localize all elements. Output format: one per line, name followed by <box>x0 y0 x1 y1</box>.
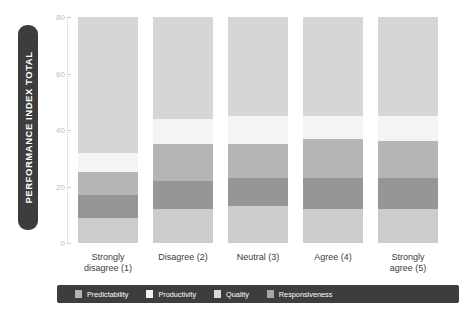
legend-item[interactable]: Productivity <box>146 290 196 299</box>
x-axis-label: Disagree (2) <box>145 252 221 263</box>
y-tick-label: 80 <box>45 13 65 22</box>
y-tick-label: 40 <box>45 126 65 135</box>
bar-segment[interactable] <box>378 209 438 243</box>
y-tick-mark <box>67 74 71 75</box>
legend-item[interactable]: Responsiveness <box>267 290 333 299</box>
x-axis-label-line: Strongly <box>370 252 446 263</box>
bar-segment[interactable] <box>78 153 138 173</box>
x-axis-label-line: Strongly <box>70 252 146 263</box>
bar-segment[interactable] <box>78 218 138 243</box>
bar-column[interactable] <box>378 17 438 243</box>
x-axis-label: Stronglydisagree (1) <box>70 252 146 274</box>
x-axis-label-line: Neutral (3) <box>220 252 296 263</box>
x-axis-label: Stronglyagree (5) <box>370 252 446 274</box>
bar-segment[interactable] <box>378 141 438 178</box>
bar-segment[interactable] <box>228 144 288 178</box>
legend-label: Responsiveness <box>279 290 333 299</box>
plot-area: 020406080 <box>45 10 465 250</box>
bar-segment[interactable] <box>303 116 363 139</box>
bar-segment[interactable] <box>303 17 363 116</box>
legend-swatch-icon <box>214 290 221 298</box>
bar-group <box>78 10 465 250</box>
legend-swatch-icon <box>75 290 82 298</box>
y-tick-mark <box>67 243 71 244</box>
bar-segment[interactable] <box>303 139 363 179</box>
y-axis-title-block: PERFORMANCE INDEX TOTAL <box>18 25 38 230</box>
chart-root: PERFORMANCE INDEX TOTAL 020406080 Strong… <box>0 0 474 319</box>
bar-segment[interactable] <box>228 116 288 144</box>
bar-segment[interactable] <box>153 17 213 119</box>
legend-item[interactable]: Quality <box>214 290 249 299</box>
x-axis-labels: Stronglydisagree (1)Disagree (2)Neutral … <box>45 252 465 280</box>
legend-swatch-icon <box>267 290 274 298</box>
y-axis-title: PERFORMANCE INDEX TOTAL <box>23 51 34 203</box>
legend-swatch-icon <box>146 290 153 298</box>
x-axis-label: Neutral (3) <box>220 252 296 263</box>
bar-segment[interactable] <box>303 178 363 209</box>
x-axis-label-line: disagree (1) <box>70 263 146 274</box>
y-tick-label: 60 <box>45 69 65 78</box>
bar-column[interactable] <box>153 17 213 243</box>
y-tick-label: 20 <box>45 182 65 191</box>
bar-column[interactable] <box>303 17 363 243</box>
bar-segment[interactable] <box>378 116 438 141</box>
bar-segment[interactable] <box>78 17 138 153</box>
x-axis-label-line: agree (5) <box>370 263 446 274</box>
bar-segment[interactable] <box>153 119 213 144</box>
y-tick-mark <box>67 130 71 131</box>
legend-item[interactable]: Predictability <box>75 290 128 299</box>
bar-segment[interactable] <box>378 17 438 116</box>
bar-segment[interactable] <box>378 178 438 209</box>
bar-segment[interactable] <box>153 181 213 209</box>
legend-label: Quality <box>226 290 249 299</box>
bar-segment[interactable] <box>153 209 213 243</box>
chart-legend: PredictabilityProductivityQualityRespons… <box>57 285 459 303</box>
bar-segment[interactable] <box>228 17 288 116</box>
bar-segment[interactable] <box>78 172 138 195</box>
legend-label: Predictability <box>87 290 128 299</box>
x-axis-label-line: Disagree (2) <box>145 252 221 263</box>
bar-segment[interactable] <box>228 178 288 206</box>
legend-label: Productivity <box>158 290 196 299</box>
bar-segment[interactable] <box>228 206 288 243</box>
bar-column[interactable] <box>78 17 138 243</box>
y-tick-mark <box>67 187 71 188</box>
bar-segment[interactable] <box>303 209 363 243</box>
x-axis-label-line: Agree (4) <box>295 252 371 263</box>
x-axis-label: Agree (4) <box>295 252 371 263</box>
bar-column[interactable] <box>228 17 288 243</box>
bar-segment[interactable] <box>78 195 138 218</box>
y-tick-label: 0 <box>45 239 65 248</box>
y-tick-mark <box>67 17 71 18</box>
bar-segment[interactable] <box>153 144 213 181</box>
